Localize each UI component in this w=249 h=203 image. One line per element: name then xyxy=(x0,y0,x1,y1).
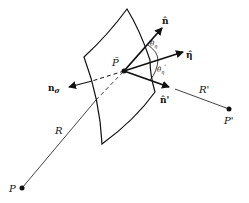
n-sigma-arrow xyxy=(69,81,92,87)
point-P-prime xyxy=(227,107,232,112)
label-P-prime: P' xyxy=(223,115,233,126)
n-sigma-hidden xyxy=(92,71,124,81)
surface-patch xyxy=(84,9,155,144)
point-P-tilde xyxy=(122,69,127,74)
label-R: R xyxy=(54,125,63,136)
label-n-hat: n̂ xyxy=(162,16,169,26)
label-theta-eta: θη xyxy=(150,40,157,50)
point-P xyxy=(20,186,25,191)
label-n-sigma: nσ xyxy=(48,83,61,95)
line-R xyxy=(22,100,96,188)
label-eta-hat: η̂ xyxy=(186,50,193,60)
label-P: P xyxy=(8,183,16,194)
scattering-geometry-diagram: P̃ n̂ η̂ n̂' nσ θη θη' R R' P P' xyxy=(0,0,249,203)
label-n-hat-prime: n̂' xyxy=(160,95,169,105)
label-theta-eta-prime: θη' xyxy=(157,63,166,76)
label-R-prime: R' xyxy=(198,84,209,95)
label-P-tilde: P̃ xyxy=(111,57,119,68)
